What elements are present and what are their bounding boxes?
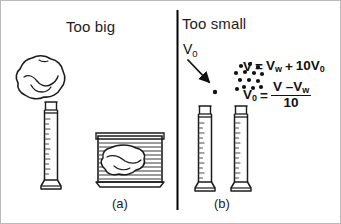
eq1-lhs: V bbox=[243, 59, 252, 74]
arrow-label-v0-subscript: 0 bbox=[192, 48, 197, 59]
left-panel-title: Too big bbox=[66, 18, 115, 35]
figure-container: Too big bbox=[0, 0, 341, 224]
left-panel-caption: (a) bbox=[112, 196, 128, 211]
graduated-cylinder-right-panel-a bbox=[192, 104, 218, 194]
arrow-label-v0-base: V bbox=[183, 41, 192, 57]
right-panel-title: Too small bbox=[182, 15, 246, 32]
rock-icon bbox=[12, 52, 70, 104]
eq1-equals: = bbox=[255, 59, 263, 74]
panel-divider bbox=[176, 10, 179, 210]
graduated-cylinder-left-panel bbox=[38, 100, 64, 192]
eq2-lhs: V0 bbox=[243, 87, 257, 103]
arrow-label-v0: V0 bbox=[183, 41, 198, 59]
water-container-with-rock bbox=[94, 130, 166, 192]
eq2-fraction: V –Vw 10 bbox=[271, 80, 311, 111]
eq1-plus: + bbox=[285, 59, 293, 74]
eq1-vw: Vw bbox=[266, 58, 282, 74]
graduated-cylinder-right-panel-b bbox=[228, 104, 254, 194]
equation-total-volume: V = Vw + 10V0 bbox=[243, 58, 325, 74]
eq2-denominator: 10 bbox=[271, 96, 311, 110]
eq2-equals: = bbox=[260, 88, 268, 103]
right-panel-caption: (b) bbox=[214, 196, 230, 211]
eq2-numerator: V –Vw bbox=[271, 80, 311, 96]
eq1-tenv0: 10V0 bbox=[296, 58, 325, 74]
single-grain-dot bbox=[211, 88, 219, 96]
pointer-arrow-icon bbox=[186, 58, 220, 92]
